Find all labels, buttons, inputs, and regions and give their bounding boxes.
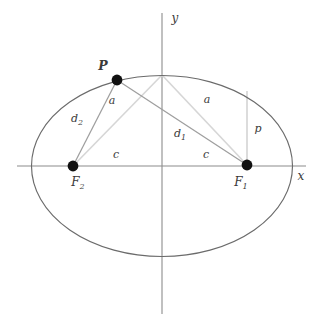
point-label-F2: F2	[70, 175, 84, 191]
focal-radii-group	[73, 80, 247, 166]
d2-letter: d	[71, 112, 78, 125]
segment-label-c-right: c	[203, 148, 209, 161]
segment-d1-line	[117, 80, 247, 165]
segment-label-a-left: a	[109, 94, 116, 107]
point-marker-F1	[242, 160, 253, 171]
axes-group	[17, 13, 306, 314]
ellipse-figure: y x P F1 F2 a a d1 d2 c c p	[0, 0, 320, 332]
semi-major-construction-lines	[73, 75, 247, 166]
segment-label-c-left: c	[113, 148, 119, 161]
d1-subscript: 1	[181, 133, 186, 142]
point-marker-F2	[68, 161, 79, 172]
F1-subscript: 1	[243, 182, 248, 191]
point-marker-P	[112, 75, 123, 86]
segment-label-d1: d1	[174, 127, 186, 142]
figure-canvas: y x P F1 F2 a a d1 d2 c c p	[0, 0, 320, 332]
y-axis-label: y	[171, 11, 179, 25]
d2-subscript: 2	[77, 118, 83, 127]
F2-subscript: 2	[79, 182, 85, 191]
segment-label-p: p	[254, 122, 261, 135]
d1-letter: d	[174, 127, 181, 140]
point-label-F1: F1	[233, 175, 247, 191]
segment-label-d2: d2	[71, 112, 83, 127]
segment-label-a-right: a	[204, 93, 211, 106]
point-label-P: P	[97, 58, 108, 73]
x-axis-label: x	[298, 169, 305, 183]
